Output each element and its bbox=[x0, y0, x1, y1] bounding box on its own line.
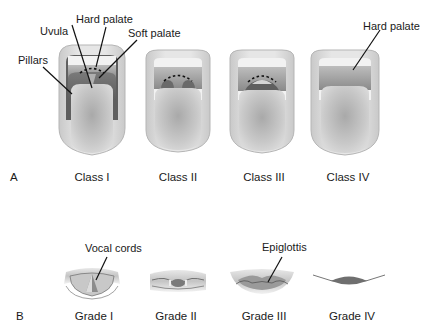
label-epiglottis: Epiglottis bbox=[262, 242, 307, 253]
larynx-grade-3 bbox=[230, 269, 294, 294]
caption-grade-3: Grade III bbox=[242, 311, 287, 323]
label-uvula: Uvula bbox=[40, 26, 68, 37]
figure-illustration bbox=[0, 0, 433, 331]
mouth-class-3 bbox=[230, 50, 294, 153]
panel-letter-a: A bbox=[10, 172, 18, 184]
larynx-grade-2 bbox=[150, 270, 206, 292]
label-pillars: Pillars bbox=[18, 55, 48, 66]
larynx-grade-1 bbox=[64, 268, 120, 299]
label-hard-palate-class-4: Hard palate bbox=[363, 21, 420, 32]
caption-class-2: Class II bbox=[159, 172, 197, 184]
caption-class-4: Class IV bbox=[327, 172, 370, 184]
mouth-class-4 bbox=[311, 50, 379, 155]
caption-grade-1: Grade I bbox=[75, 311, 113, 323]
caption-grade-4: Grade IV bbox=[329, 311, 375, 323]
caption-grade-2: Grade II bbox=[155, 311, 197, 323]
label-hard-palate: Hard palate bbox=[76, 14, 133, 25]
mouth-class-2 bbox=[146, 50, 210, 152]
larynx-grade-4 bbox=[313, 275, 385, 285]
label-soft-palate: Soft palate bbox=[128, 28, 181, 39]
label-vocal-cords: Vocal cords bbox=[85, 243, 142, 254]
caption-class-3: Class III bbox=[243, 172, 285, 184]
caption-class-1: Class I bbox=[74, 172, 109, 184]
panel-letter-b: B bbox=[16, 311, 24, 323]
